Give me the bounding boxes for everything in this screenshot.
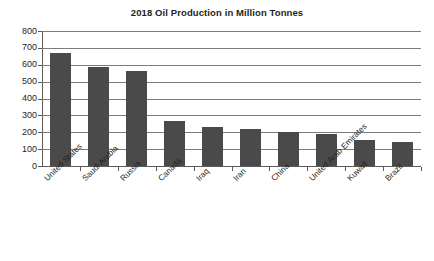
gridline bbox=[42, 31, 421, 32]
x-axis-tick-mark bbox=[156, 167, 157, 171]
y-axis-tick-mark bbox=[38, 132, 42, 133]
y-axis-tick-mark bbox=[38, 149, 42, 150]
y-axis-tick-mark bbox=[38, 115, 42, 116]
y-axis-tick-label: 500 bbox=[3, 77, 37, 86]
gridline bbox=[42, 48, 421, 49]
y-axis-tick-label: 0 bbox=[3, 162, 37, 171]
y-axis-tick-label: 700 bbox=[3, 43, 37, 52]
bar[interactable] bbox=[392, 142, 413, 166]
x-axis-tick-mark bbox=[383, 167, 384, 171]
y-axis-tick-label: 800 bbox=[3, 27, 37, 36]
x-axis-tick-mark bbox=[421, 167, 422, 171]
y-axis-tick-mark bbox=[38, 31, 42, 32]
x-axis-tick-mark bbox=[269, 167, 270, 171]
bar[interactable] bbox=[278, 132, 299, 166]
x-axis-tick-mark bbox=[307, 167, 308, 171]
y-axis-tick-mark bbox=[38, 166, 42, 167]
bar[interactable] bbox=[126, 71, 147, 166]
x-axis-tick-mark bbox=[232, 167, 233, 171]
x-axis-tick-label: Iran bbox=[232, 167, 248, 183]
plot-area bbox=[42, 31, 421, 166]
gridline bbox=[42, 65, 421, 66]
y-axis-tick-mark bbox=[38, 99, 42, 100]
x-axis-tick-mark bbox=[118, 167, 119, 171]
x-axis-tick-label: Iraq bbox=[195, 167, 211, 183]
y-axis-tick-mark bbox=[38, 82, 42, 83]
bar[interactable] bbox=[50, 53, 71, 166]
x-axis-tick-mark bbox=[80, 167, 81, 171]
bar-chart: 2018 Oil Production in Million Tonnes 80… bbox=[0, 0, 434, 261]
y-axis-tick-mark bbox=[38, 48, 42, 49]
x-axis-tick-mark bbox=[194, 167, 195, 171]
x-axis-tick-mark bbox=[345, 167, 346, 171]
y-axis-tick-label: 200 bbox=[3, 128, 37, 137]
y-axis-tick-label: 100 bbox=[3, 145, 37, 154]
bar[interactable] bbox=[202, 127, 223, 166]
y-axis-tick-label: 400 bbox=[3, 94, 37, 103]
chart-title: 2018 Oil Production in Million Tonnes bbox=[0, 7, 434, 18]
y-axis-tick-label: 600 bbox=[3, 60, 37, 69]
y-axis-tick-mark bbox=[38, 65, 42, 66]
bar[interactable] bbox=[240, 129, 261, 166]
y-axis-tick-label: 300 bbox=[3, 111, 37, 120]
y-axis-tick-labels: 8007006005004003002001000 bbox=[0, 0, 37, 261]
